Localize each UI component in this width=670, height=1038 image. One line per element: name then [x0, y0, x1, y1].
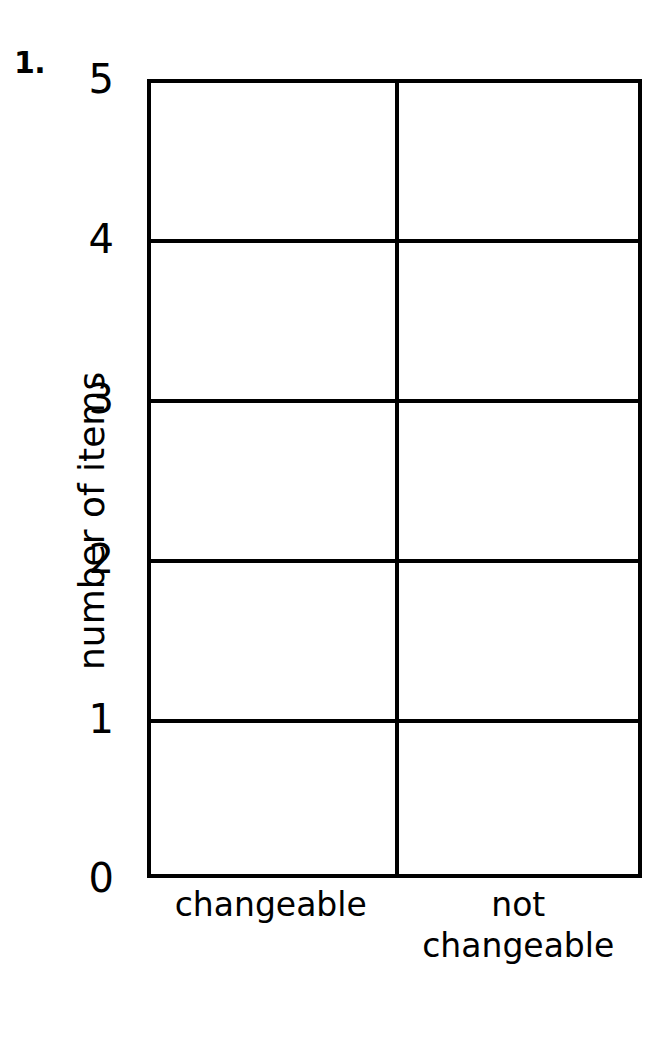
gridline-category-divider — [395, 83, 399, 874]
y-axis-title-text: number of items — [74, 372, 110, 670]
y-tick-5: 5 — [89, 59, 114, 99]
x-label-not-changeable: not changeable — [395, 884, 643, 1004]
x-axis-category-labels: changeable not changeable — [147, 884, 642, 1004]
y-tick-1: 1 — [89, 699, 114, 739]
x-label-changeable: changeable — [147, 884, 395, 1004]
x-label-not-changeable-line-1: not — [395, 884, 643, 925]
y-tick-0: 0 — [89, 858, 114, 898]
chart-plot-area — [147, 79, 642, 878]
x-label-not-changeable-line-2: changeable — [395, 925, 643, 966]
y-tick-4: 4 — [89, 219, 114, 259]
x-label-changeable-line-1: changeable — [147, 884, 395, 925]
